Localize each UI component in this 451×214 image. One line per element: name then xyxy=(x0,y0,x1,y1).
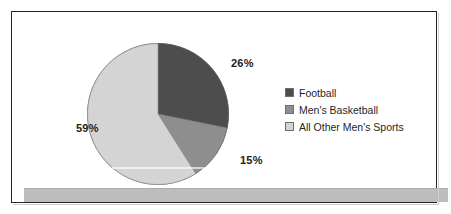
pie-label-mens-basketball-percent: 15% xyxy=(240,154,263,166)
legend-item-mens-basketball[interactable]: Men's Basketball xyxy=(285,101,450,118)
legend-label-all-other-mens-sports: All Other Men's Sports xyxy=(299,121,404,133)
pie-chart: 26% 59% 15% Football Men's Basketball Al… xyxy=(24,24,448,188)
pie-label-all-other-percent: 59% xyxy=(76,122,99,134)
legend-swatch-all-other-mens-sports-icon xyxy=(285,122,294,131)
chart-legend: Football Men's Basketball All Other Men'… xyxy=(285,84,450,135)
legend-label-football: Football xyxy=(299,87,336,99)
pie-slice-football[interactable] xyxy=(158,44,228,128)
legend-item-football[interactable]: Football xyxy=(285,84,450,101)
figure-frame: 26% 59% 15% Football Men's Basketball Al… xyxy=(11,11,437,203)
legend-swatch-mens-basketball-icon xyxy=(285,105,294,114)
figure-root: 26% 59% 15% Football Men's Basketball Al… xyxy=(0,0,451,214)
pie-label-football-percent: 26% xyxy=(231,57,254,69)
legend-label-mens-basketball: Men's Basketball xyxy=(299,104,378,116)
legend-item-all-other-mens-sports[interactable]: All Other Men's Sports xyxy=(285,118,450,135)
legend-swatch-football-icon xyxy=(285,88,294,97)
bottom-grey-band xyxy=(24,188,448,202)
